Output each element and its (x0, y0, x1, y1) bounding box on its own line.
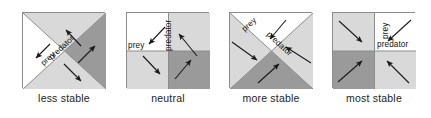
panel-neutral-box: prey predator (126, 12, 209, 88)
stability-diagram-figure: prey predator less stable (0, 0, 431, 118)
region-bottom-left (333, 51, 375, 89)
region-top-left (333, 13, 375, 51)
panel-most-stable: prey predator (332, 12, 415, 88)
label-predator: predator (164, 20, 173, 51)
panel-less-stable-box: prey predator (22, 12, 105, 88)
region-top-right (169, 13, 211, 51)
caption-most-stable: most stable (304, 92, 431, 104)
label-prey: prey (381, 23, 390, 39)
region-bottom-left (127, 51, 169, 89)
panel-neutral: prey predator (126, 12, 209, 88)
label-prey: prey (128, 41, 144, 50)
panel-more-stable: prey predator (229, 12, 312, 88)
panel-less-stable-graphic (23, 13, 106, 89)
label-predator: predator (377, 40, 408, 49)
panel-most-stable-box: prey predator (332, 12, 415, 88)
panel-more-stable-box: prey predator (229, 12, 312, 88)
region-bottom-right (169, 51, 211, 89)
panel-most-stable-graphic (333, 13, 416, 89)
panel-less-stable: prey predator (22, 12, 105, 88)
